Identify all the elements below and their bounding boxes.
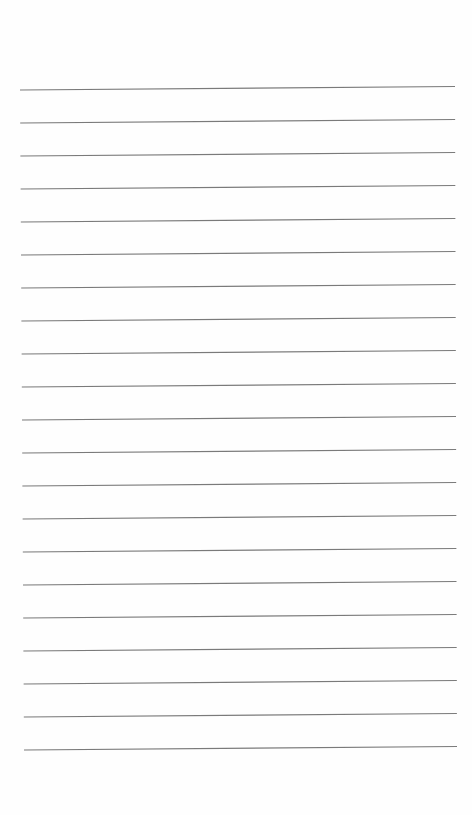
ruled-line: [23, 582, 457, 586]
ruled-line: [23, 615, 456, 619]
ruled-line: [20, 87, 455, 91]
ruled-line: [22, 351, 456, 355]
ruled-line: [20, 120, 455, 124]
ruled-line: [22, 417, 456, 421]
ruled-line: [24, 714, 457, 718]
ruled-line: [22, 450, 456, 454]
ruled-line: [23, 549, 457, 553]
ruled-lines: [0, 0, 472, 815]
ruled-line: [21, 252, 456, 256]
ruled-line: [21, 219, 456, 223]
ruled-line: [23, 516, 457, 520]
ruled-line: [22, 384, 456, 388]
ruled-line: [20, 153, 455, 157]
ruled-line: [24, 747, 457, 751]
ruled-line: [23, 648, 456, 652]
ruled-line: [21, 318, 455, 322]
ruled-line: [24, 681, 457, 685]
lined-paper-page: [0, 0, 472, 815]
ruled-line: [22, 483, 456, 487]
ruled-line: [21, 186, 456, 190]
ruled-line: [21, 285, 455, 289]
